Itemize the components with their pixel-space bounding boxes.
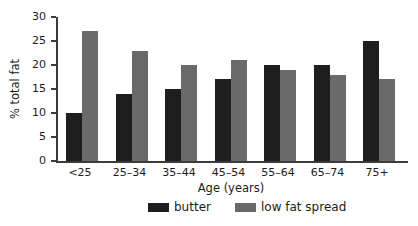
bar-low-fat-spread-2 — [181, 65, 197, 161]
bar-low-fat-spread-6 — [379, 79, 395, 161]
y-tick-mark — [51, 160, 56, 162]
bar-low-fat-spread-1 — [132, 51, 148, 161]
y-tick-label: 0 — [16, 154, 46, 168]
y-tick-label: 5 — [16, 130, 46, 144]
y-tick-mark — [51, 112, 56, 114]
y-tick-mark — [51, 16, 56, 18]
y-tick-label: 15 — [16, 82, 46, 96]
x-tick-label: 35–44 — [154, 166, 204, 179]
bar-butter-0 — [66, 113, 82, 161]
butter-swatch-icon — [148, 203, 169, 212]
y-tick-label: 30 — [16, 10, 46, 24]
x-tick-label: <25 — [55, 166, 105, 179]
y-tick-label: 20 — [16, 58, 46, 72]
y-tick-mark — [51, 40, 56, 42]
bar-low-fat-spread-0 — [82, 31, 98, 161]
plot-area — [56, 17, 408, 163]
x-tick-label: 45–54 — [204, 166, 254, 179]
legend-label-low-fat-spread: low fat spread — [261, 201, 346, 214]
legend-item-butter: butter — [148, 201, 211, 214]
x-tick-label: 65–74 — [303, 166, 353, 179]
x-tick-label: 55–64 — [253, 166, 303, 179]
y-tick-label: 25 — [16, 34, 46, 48]
fat-intake-bar-chart: % total fat Age (years) butter low fat s… — [0, 0, 418, 226]
x-axis-title: Age (years) — [56, 181, 406, 195]
bar-low-fat-spread-3 — [231, 60, 247, 161]
y-tick-mark — [51, 88, 56, 90]
y-tick-mark — [51, 136, 56, 138]
bar-butter-4 — [264, 65, 280, 161]
low-fat-spread-swatch-icon — [235, 203, 256, 212]
bar-low-fat-spread-5 — [330, 75, 346, 161]
x-tick-label: 75+ — [352, 166, 402, 179]
y-tick-mark — [51, 64, 56, 66]
bar-butter-6 — [363, 41, 379, 161]
bar-low-fat-spread-4 — [280, 70, 296, 161]
bar-butter-3 — [215, 79, 231, 161]
legend-label-butter: butter — [174, 201, 211, 214]
bar-butter-5 — [314, 65, 330, 161]
bar-butter-2 — [165, 89, 181, 161]
bar-butter-1 — [116, 94, 132, 161]
legend-item-low-fat-spread: low fat spread — [235, 201, 346, 214]
legend: butter low fat spread — [148, 201, 346, 214]
y-tick-label: 10 — [16, 106, 46, 120]
x-tick-label: 25–34 — [105, 166, 155, 179]
